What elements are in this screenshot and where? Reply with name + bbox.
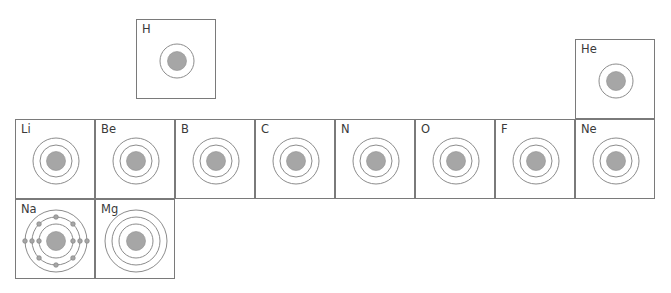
electron <box>37 239 42 244</box>
electron <box>23 239 28 244</box>
nucleus <box>367 152 386 171</box>
nucleus <box>47 152 66 171</box>
bohr-model-icon <box>137 20 217 100</box>
element-cell-o: O <box>415 119 495 199</box>
electron <box>71 222 76 227</box>
element-cell-f: F <box>495 119 575 199</box>
electron <box>37 222 42 227</box>
bohr-model-icon <box>96 200 176 280</box>
element-cell-mg: Mg <box>95 199 175 279</box>
bohr-model-icon <box>576 40 656 120</box>
bohr-model-icon <box>336 120 416 200</box>
nucleus <box>607 72 626 91</box>
bohr-model-icon <box>416 120 496 200</box>
bohr-model-icon <box>176 120 256 200</box>
element-cell-c: C <box>255 119 335 199</box>
element-cell-he: He <box>575 39 655 119</box>
bohr-model-icon <box>496 120 576 200</box>
electron <box>54 263 59 268</box>
bohr-model-icon <box>16 200 96 280</box>
bohr-model-icon <box>256 120 336 200</box>
bohr-model-icon <box>96 120 176 200</box>
nucleus <box>287 152 306 171</box>
nucleus <box>47 232 66 251</box>
element-cell-na: Na <box>15 199 95 279</box>
nucleus <box>168 52 187 71</box>
nucleus <box>127 152 146 171</box>
element-cell-h: H <box>136 19 216 99</box>
electron <box>30 239 35 244</box>
electron <box>37 256 42 261</box>
electron <box>54 215 59 220</box>
element-cell-b: B <box>175 119 255 199</box>
element-cell-n: N <box>335 119 415 199</box>
electron <box>78 239 83 244</box>
electron <box>71 239 76 244</box>
nucleus <box>207 152 226 171</box>
element-cell-li: Li <box>15 119 95 199</box>
electron <box>85 239 90 244</box>
element-cell-be: Be <box>95 119 175 199</box>
nucleus <box>127 232 146 251</box>
nucleus <box>447 152 466 171</box>
bohr-model-icon <box>576 120 656 200</box>
electron <box>71 256 76 261</box>
element-cell-ne: Ne <box>575 119 655 199</box>
nucleus <box>607 152 626 171</box>
nucleus <box>527 152 546 171</box>
bohr-model-icon <box>16 120 96 200</box>
